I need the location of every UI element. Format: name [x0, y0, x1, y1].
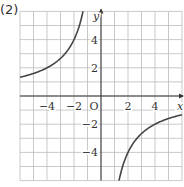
- svg-text:4: 4: [152, 100, 159, 113]
- svg-text:−2: −2: [66, 100, 82, 113]
- svg-text:−2: −2: [82, 118, 98, 131]
- svg-text:4: 4: [91, 34, 98, 47]
- axes: [20, 8, 184, 180]
- svg-text:x: x: [177, 100, 184, 113]
- svg-text:2: 2: [91, 62, 98, 75]
- svg-text:2: 2: [125, 100, 132, 113]
- svg-text:−4: −4: [39, 100, 55, 113]
- svg-text:−4: −4: [82, 146, 98, 159]
- svg-text:y: y: [92, 10, 100, 23]
- hyperbola-chart: −4−22442−2−4Oxy: [0, 0, 184, 187]
- svg-text:O: O: [89, 100, 98, 113]
